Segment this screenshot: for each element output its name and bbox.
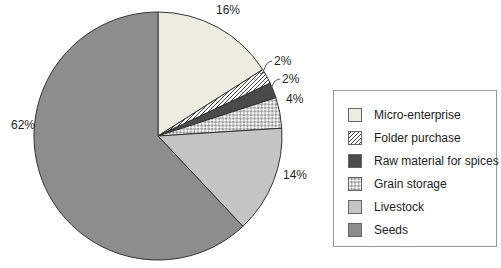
legend-item-label: Raw material for spices [374,154,499,168]
legend-item-label: Micro-enterprise [374,108,461,122]
slice-percent-label-micro-enterprise: 16% [216,4,240,17]
legend-swatch-micro-enterprise [348,108,362,122]
legend-swatch-grain-storage [348,177,362,191]
pie-chart-figure: 16% 2% 2% 4% 14% 62% Micro-enterprise Fo… [0,0,501,268]
slice-percent-label-seeds: 62% [11,119,35,132]
pie-slices [34,12,282,260]
legend-swatch-folder-purchase [348,131,362,145]
legend-item-label: Folder purchase [374,131,461,145]
legend-item-label: Livestock [374,200,424,214]
legend-item: Grain storage [348,172,496,195]
legend: Micro-enterprise Folder purchase Raw mat… [333,90,497,247]
legend-swatch-livestock [348,200,362,214]
legend-item: Livestock [348,195,496,218]
slice-percent-label-livestock: 14% [283,169,307,182]
slice-percent-label-folder-purchase: 2% [274,55,291,68]
slice-percent-label-raw-material: 2% [282,73,299,86]
slice-percent-label-grain-storage: 4% [286,93,303,106]
legend-item: Folder purchase [348,126,496,149]
legend-item: Micro-enterprise [348,103,496,126]
legend-item: Seeds [348,218,496,241]
legend-swatch-seeds [348,223,362,237]
legend-item-label: Grain storage [374,177,447,191]
legend-item-label: Seeds [374,223,408,237]
legend-swatch-raw-material [348,154,362,168]
legend-item: Raw material for spices [348,149,496,172]
